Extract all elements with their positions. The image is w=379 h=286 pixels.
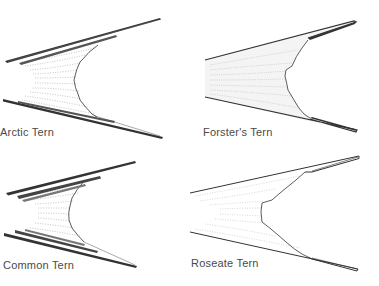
forsters-tern-tail xyxy=(205,21,357,132)
common-tern-tail xyxy=(4,161,137,268)
label-common-tern: Common Tern xyxy=(3,259,74,271)
label-roseate-tern: Roseate Tern xyxy=(191,257,259,269)
arctic-tern-tail xyxy=(3,18,163,139)
label-forsters-tern: Forster's Tern xyxy=(203,126,273,138)
label-arctic-tern: Arctic Tern xyxy=(0,126,54,138)
roseate-tern-tail xyxy=(190,156,359,271)
tern-tails-illustration xyxy=(0,0,379,286)
